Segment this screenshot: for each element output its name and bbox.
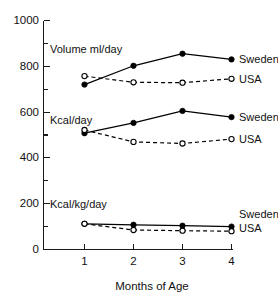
kcal-day-usa-line [85,130,232,144]
volume-sweden-point-4 [229,57,234,62]
kcal-day-usa-point-2 [131,139,136,144]
volume-usa-point-2 [131,80,136,85]
series-kcal-kg-day-sweden [82,221,234,229]
volume-sweden-point-3 [180,51,185,56]
x-tick-label-2: 2 [130,255,136,267]
y-tick-label-400: 400 [20,151,39,163]
group-label-volume: Volume ml/day [50,43,123,55]
y-tick-label-1000: 1000 [13,14,39,26]
x-axis-title: Months of Age [115,280,189,292]
x-tick-label-1: 1 [81,255,87,267]
series-label-kcal-kg-day-sweden: Sweden [239,208,278,220]
kcal-day-sweden-point-4 [229,114,234,119]
kcal-day-usa-point-3 [180,141,185,146]
kcal-kg-day-sweden-point-2 [131,222,136,227]
volume-usa-line [85,76,232,83]
kcal-day-usa-point-1 [82,127,87,132]
volume-sweden-point-2 [131,63,136,68]
series-label-kcal-kg-day-usa: USA [239,222,262,234]
series-label-volume-sweden: Sweden [239,53,278,65]
line-chart: 1000 800 600 400 200 0 1 2 3 4 Months of… [0,0,278,297]
chart-container: 1000 800 600 400 200 0 1 2 3 4 Months of… [0,0,278,297]
series-label-kcal-day-sweden: Sweden [239,111,278,123]
kcal-kg-day-usa-point-3 [180,228,185,233]
y-tick-labels: 1000 800 600 400 200 0 [13,14,39,255]
kcal-kg-day-usa-point-4 [229,229,234,234]
x-tick-label-4: 4 [228,255,235,267]
volume-usa-point-1 [82,74,87,79]
series-kcal-kg-day-usa [82,221,234,234]
series-kcal-day-usa [82,127,234,146]
y-tick-label-800: 800 [20,60,39,72]
series-label-kcal-day-usa: USA [239,133,262,145]
series-kcal-day-sweden [82,108,234,136]
series-volume-usa [82,74,234,86]
volume-sweden-point-1 [82,82,87,87]
volume-usa-point-4 [229,76,234,81]
series-volume-sweden [82,51,234,87]
kcal-kg-day-usa-point-2 [131,227,136,232]
x-ticks [85,244,232,250]
group-label-kcal-kg-day: Kcal/kg/day [50,198,107,210]
series-label-volume-usa: USA [239,73,262,85]
kcal-day-sweden-point-3 [180,108,185,113]
volume-sweden-line [85,54,232,85]
group-label-kcal-day: Kcal/day [50,114,93,126]
x-tick-label-3: 3 [179,255,185,267]
y-tick-label-600: 600 [20,106,39,118]
kcal-kg-day-usa-point-1 [82,221,87,226]
y-minor-ticks [44,43,49,226]
volume-usa-point-3 [180,80,185,85]
y-tick-label-0: 0 [33,243,39,255]
y-tick-label-200: 200 [20,197,39,209]
kcal-day-usa-point-4 [229,137,234,142]
kcal-day-sweden-point-2 [131,120,136,125]
x-tick-labels: 1 2 3 4 [81,255,235,267]
kcal-day-sweden-line [85,111,232,133]
